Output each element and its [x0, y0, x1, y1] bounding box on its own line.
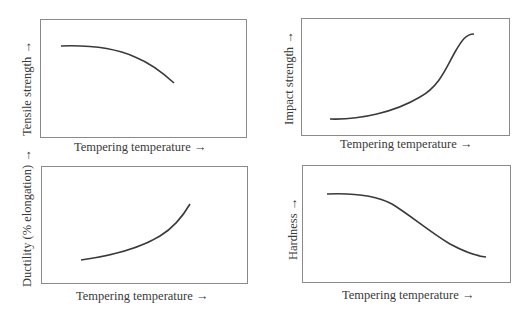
ductility-curve — [81, 204, 190, 260]
curves-layer — [0, 0, 531, 315]
tensile-strength-curve — [61, 46, 174, 83]
impact-strength-curve — [330, 34, 474, 119]
hardness-curve — [327, 194, 486, 257]
